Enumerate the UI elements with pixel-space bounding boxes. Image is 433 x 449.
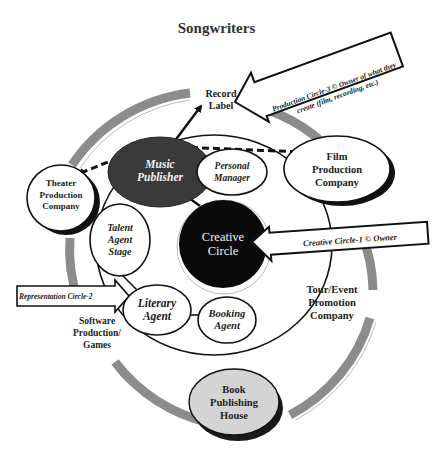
diagram-canvas [0,0,433,449]
representation-callout-text: Representation Circle-2 [19,291,115,303]
film-production-label: Film Production Company [297,150,377,189]
tour-event-label: Tour/Event Promotion Company [297,283,367,322]
record-label-label: Record Label [196,88,246,112]
personal-manager-label: Personal Manager [197,160,267,184]
booking-agent-label: Booking Agent [198,308,256,332]
music-publisher-label: Music Publisher [112,158,208,184]
theater-production-label: Theater Production Company [28,178,94,213]
diagram-title: Songwriters [0,20,433,37]
talent-agent-label: Talent Agent Stage [92,222,148,258]
software-label: Software Production/ Games [64,315,130,351]
literary-agent-label: Literary Agent [123,297,191,323]
book-publishing-label: Book Publishing House [194,383,274,422]
creative-circle-label: Creative Circle [183,230,263,258]
